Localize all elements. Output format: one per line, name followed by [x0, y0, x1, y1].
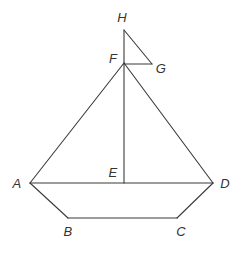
segment-AB [30, 183, 68, 218]
segment-FD [124, 63, 213, 183]
vertex-label-c: C [176, 225, 186, 238]
geometry-figure: A B C D E F G H [0, 0, 243, 256]
segment-CD [177, 183, 213, 218]
vertex-label-b: B [64, 225, 73, 238]
vertex-label-g: G [156, 62, 166, 75]
vertex-label-a: A [13, 177, 22, 190]
vertex-label-f: F [109, 52, 117, 65]
vertex-label-e: E [109, 166, 118, 179]
vertex-label-h: H [117, 11, 127, 24]
figure-canvas [0, 0, 243, 256]
segment-HG [124, 30, 152, 64]
vertex-label-d: D [220, 177, 230, 190]
